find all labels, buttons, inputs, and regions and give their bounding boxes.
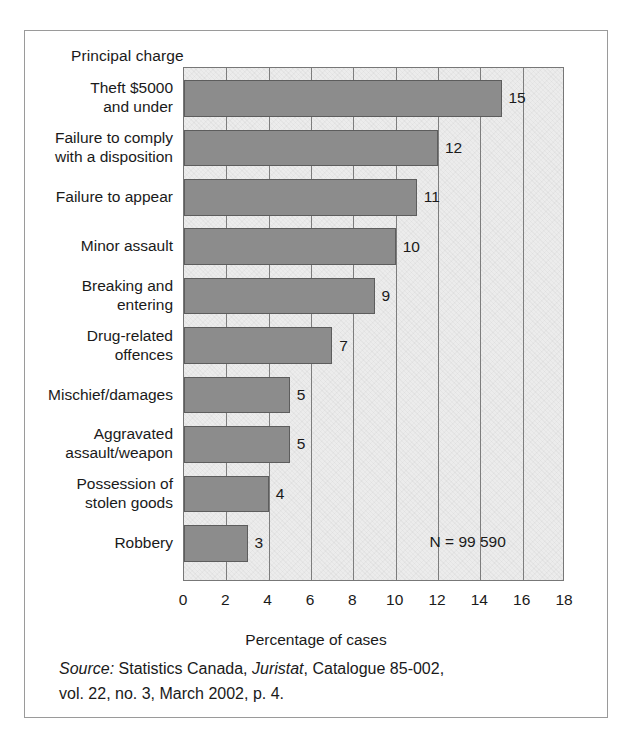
bar <box>184 525 248 562</box>
bar <box>184 476 269 513</box>
x-tick-label-10: 10 <box>386 591 403 609</box>
x-tick-label-16: 16 <box>513 591 530 609</box>
source-note: Source: Statistics Canada, Juristat, Cat… <box>59 656 579 706</box>
bar-row: 4 <box>184 476 563 513</box>
bar <box>184 228 396 265</box>
bar-value-label: 11 <box>424 188 440 206</box>
x-tick-label-0: 0 <box>179 591 188 609</box>
category-label: Theft $5000 and under <box>25 78 173 116</box>
x-axis-title: Percentage of cases <box>25 631 607 649</box>
bar-row: 12 <box>184 130 563 167</box>
bar <box>184 130 438 167</box>
bar-row: 3 <box>184 525 563 562</box>
bar-value-label: 7 <box>339 337 348 355</box>
category-label: Aggravated assault/weapon <box>25 424 173 462</box>
bar <box>184 278 375 315</box>
x-tick-label-18: 18 <box>555 591 572 609</box>
bar-row: 10 <box>184 228 563 265</box>
bar-value-label: 5 <box>297 386 306 404</box>
x-tick-label-14: 14 <box>471 591 488 609</box>
bar-row: 11 <box>184 179 563 216</box>
x-tick-label-8: 8 <box>348 591 357 609</box>
source-label: Source: <box>59 660 114 677</box>
bar-value-label: 9 <box>382 287 391 305</box>
bar-value-label: 4 <box>276 485 285 503</box>
plot-area: 15121110975543 N = 99 590 <box>183 67 564 581</box>
category-label: Mischief/damages <box>25 385 173 404</box>
bar-value-label: 3 <box>255 534 264 552</box>
bar-row: 15 <box>184 80 563 117</box>
bar-row: 5 <box>184 377 563 414</box>
bar-value-label: 15 <box>509 89 526 107</box>
x-tick-label-4: 4 <box>263 591 272 609</box>
bar-row: 9 <box>184 278 563 315</box>
bar <box>184 327 332 364</box>
x-tick-label-6: 6 <box>306 591 315 609</box>
category-label: Failure to comply with a disposition <box>25 128 173 166</box>
source-line-2: vol. 22, no. 3, March 2002, p. 4. <box>59 685 284 702</box>
bar <box>184 179 417 216</box>
x-tick-label-2: 2 <box>221 591 230 609</box>
y-axis-title: Principal charge <box>71 47 184 65</box>
bar-value-label: 12 <box>445 139 462 157</box>
bar <box>184 80 502 117</box>
category-label: Breaking and entering <box>25 276 173 314</box>
category-label: Robbery <box>25 533 173 552</box>
n-annotation: N = 99 590 <box>430 533 506 551</box>
bar-row: 5 <box>184 426 563 463</box>
category-label: Minor assault <box>25 236 173 255</box>
category-label: Failure to appear <box>25 187 173 206</box>
bar <box>184 426 290 463</box>
x-tick-label-12: 12 <box>428 591 445 609</box>
source-text-a: Statistics Canada, <box>114 660 252 677</box>
bar-value-label: 5 <box>297 435 306 453</box>
source-text-b: , Catalogue 85-002, <box>304 660 445 677</box>
x-axis: 024681012141618 <box>183 589 564 615</box>
bar-value-label: 10 <box>403 238 420 256</box>
bar <box>184 377 290 414</box>
category-label: Possession of stolen goods <box>25 474 173 512</box>
figure-frame: Principal charge 15121110975543 N = 99 5… <box>24 30 608 718</box>
bar-row: 7 <box>184 327 563 364</box>
source-publication: Juristat <box>252 660 304 677</box>
category-label: Drug-related offences <box>25 326 173 364</box>
